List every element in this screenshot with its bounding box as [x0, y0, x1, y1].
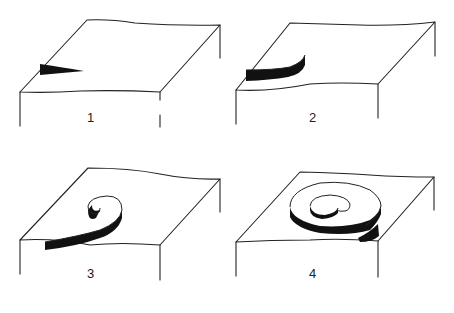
spiral-formation-diagram: 1 2 3 4 [0, 0, 454, 313]
panel-4-label: 4 [309, 266, 316, 281]
panel-2-label: 2 [309, 110, 316, 125]
panel-2-curl [246, 55, 305, 81]
panel-1-wedge [40, 64, 84, 75]
diagram-canvas [0, 0, 454, 313]
panel-1-label: 1 [87, 110, 94, 125]
panel-4-slab [236, 172, 434, 277]
panel-4-spiral [290, 182, 381, 242]
panel-3-slab [20, 168, 220, 280]
panel-3-spiral [45, 196, 122, 250]
panel-3-label: 3 [87, 266, 94, 281]
